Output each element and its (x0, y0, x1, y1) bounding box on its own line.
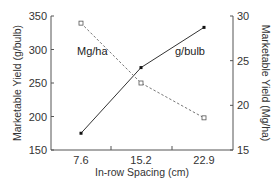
left-tick-label: 350 (29, 10, 47, 22)
left-axis-title: Marketable Yield (g/bulb) (11, 25, 23, 141)
right-tick-label: 20 (237, 99, 249, 111)
series-label-mgha: Mg/ha (77, 45, 108, 57)
dual-axis-line-chart: 150200250300350152025307.615.222.9In-row… (0, 0, 275, 186)
right-tick-label: 25 (237, 55, 249, 67)
labels-group: Mg/hag/bulb (77, 45, 205, 57)
series-line-gbulb (81, 27, 204, 133)
data-point-marker (139, 81, 143, 85)
x-tick-label: 22.9 (193, 154, 214, 166)
data-point-marker (203, 26, 206, 29)
right-axis-title: Marketable Yield (Mg/ha) (260, 25, 272, 142)
left-tick-label: 150 (29, 144, 47, 156)
data-point-marker (202, 116, 206, 120)
series-group (79, 21, 206, 135)
data-point-marker (79, 21, 83, 25)
series-line-mgha (81, 23, 204, 118)
right-tick-label: 15 (237, 144, 249, 156)
left-tick-label: 300 (29, 44, 47, 56)
series-label-gbulb: g/bulb (175, 45, 205, 57)
x-axis-title: In-row Spacing (cm) (95, 166, 189, 178)
data-point-marker (140, 66, 143, 69)
left-tick-label: 200 (29, 111, 47, 123)
x-tick-label: 7.6 (73, 154, 88, 166)
data-point-marker (80, 132, 83, 135)
x-tick-label: 15.2 (130, 154, 151, 166)
left-tick-label: 250 (29, 77, 47, 89)
right-tick-label: 30 (237, 10, 249, 22)
axes: 150200250300350152025307.615.222.9In-row… (11, 10, 272, 178)
